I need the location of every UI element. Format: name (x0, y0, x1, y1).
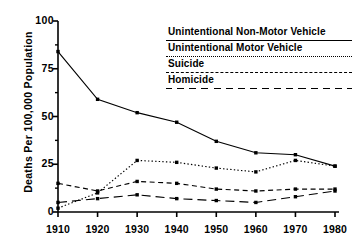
x-axis-tick-label: 1980 (315, 223, 355, 235)
x-axis-tick-label: 1960 (236, 223, 276, 235)
x-axis-tick-label: 1950 (196, 223, 236, 235)
legend-item-label: Unintentional Non-Motor Vehicle (166, 26, 352, 37)
chart-figure: Deaths Per 100,000 Population 0255075100… (0, 0, 359, 251)
legend-item[interactable]: Unintentional Non-Motor Vehicle (166, 26, 352, 42)
x-axis-tick-label: 1930 (117, 223, 157, 235)
x-axis-tick-label: 1920 (78, 223, 118, 235)
legend-item-label: Unintentional Motor Vehicle (166, 42, 352, 53)
legend-line-sample-solid (166, 40, 352, 41)
legend-item[interactable]: Unintentional Motor Vehicle (166, 42, 352, 58)
legend-item-label: Homicide (166, 74, 352, 85)
legend-line-sample-long-dash (166, 88, 352, 89)
legend-item-label: Suicide (166, 58, 352, 69)
legend-line-sample-dashed (166, 72, 352, 73)
legend-item[interactable]: Suicide (166, 58, 352, 74)
x-axis-tick-label: 1970 (275, 223, 315, 235)
legend-line-sample-dotted (166, 56, 352, 57)
chart-legend: Unintentional Non-Motor VehicleUnintenti… (166, 26, 352, 90)
x-axis-tick-label: 1940 (157, 223, 197, 235)
legend-item[interactable]: Homicide (166, 74, 352, 90)
x-axis-tick-label: 1910 (38, 223, 78, 235)
